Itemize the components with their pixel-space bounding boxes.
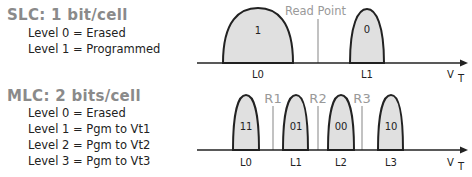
slc-l0-label: L0	[252, 69, 264, 80]
mlc-axis-label: V	[447, 157, 454, 168]
slc-read-point-label: Read Point	[285, 4, 347, 18]
mlc-l0-label: L0	[240, 157, 252, 168]
slc-axis-arrow	[460, 60, 468, 67]
mlc-diagram: R1 R2 R3 11 01 00 10 L0 L1 L2 L3 V T	[197, 91, 468, 172]
mlc-r2-label: R2	[309, 91, 326, 106]
mlc-l2-label: L2	[335, 157, 347, 168]
mlc-axis-subscript: T	[457, 161, 465, 172]
mlc-axis-arrow	[460, 147, 468, 154]
mlc-r3-label: R3	[353, 91, 370, 106]
slc-axis-subscript: T	[457, 73, 465, 84]
slc-diagram: Read Point 1 0 L0 L1 V T	[197, 4, 468, 84]
mlc-l1-bits: 01	[290, 121, 303, 132]
slc-l1-label: L1	[361, 69, 373, 80]
slc-axis-label: V	[447, 69, 454, 80]
slc-l1-distribution	[350, 9, 384, 63]
mlc-l1-label: L1	[290, 157, 302, 168]
mlc-l0-bits: 11	[240, 121, 253, 132]
vt-distribution-diagram: Read Point 1 0 L0 L1 V T R1 R2 R3 11 01 …	[0, 0, 472, 177]
mlc-l2-bits: 00	[335, 121, 348, 132]
mlc-r1-label: R1	[264, 91, 281, 106]
slc-l1-bits: 0	[364, 24, 370, 35]
slc-l0-bits: 1	[255, 25, 261, 36]
mlc-l3-bits: 10	[385, 121, 398, 132]
mlc-l3-label: L3	[385, 157, 397, 168]
